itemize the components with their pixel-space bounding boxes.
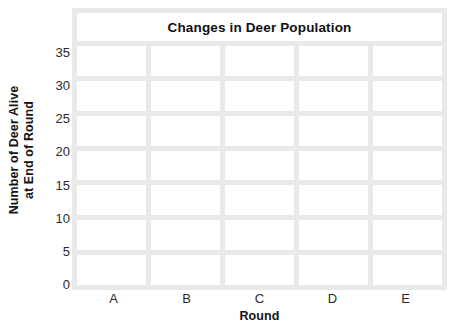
plot-area: Changes in Deer Population bbox=[72, 8, 447, 290]
x-axis-tick-labels: A B C D E bbox=[77, 291, 442, 309]
y-tick-0: 0 bbox=[44, 278, 70, 291]
plot-grid bbox=[77, 46, 442, 285]
y-axis-title: Number of Deer Alive at End of Round bbox=[0, 0, 44, 300]
y-tick-25: 25 bbox=[44, 112, 70, 125]
y-tick-20: 20 bbox=[44, 145, 70, 158]
deer-population-chart: Number of Deer Alive at End of Round 35 … bbox=[0, 0, 455, 331]
grid-cell-d-7 bbox=[299, 46, 368, 76]
y-axis-title-line2: at End of Round bbox=[22, 86, 37, 215]
grid-cell-a-7 bbox=[77, 46, 146, 76]
grid-cell-b-4 bbox=[151, 151, 220, 181]
grid-cell-d-6 bbox=[299, 81, 368, 111]
grid-cell-b-5 bbox=[151, 116, 220, 146]
grid-cell-e-2 bbox=[373, 220, 442, 250]
grid-cell-b-7 bbox=[151, 46, 220, 76]
chart-title: Changes in Deer Population bbox=[168, 20, 352, 35]
grid-cell-e-7 bbox=[373, 46, 442, 76]
grid-cell-e-1 bbox=[373, 255, 442, 285]
grid-cell-b-3 bbox=[151, 185, 220, 215]
grid-cell-e-5 bbox=[373, 116, 442, 146]
grid-cell-e-4 bbox=[373, 151, 442, 181]
grid-cell-c-1 bbox=[225, 255, 294, 285]
y-tick-35: 35 bbox=[44, 46, 70, 59]
y-tick-30: 30 bbox=[44, 79, 70, 92]
grid-cell-a-5 bbox=[77, 116, 146, 146]
grid-cell-a-4 bbox=[77, 151, 146, 181]
x-tick-b: B bbox=[150, 291, 223, 309]
grid-cell-d-4 bbox=[299, 151, 368, 181]
grid-cell-b-1 bbox=[151, 255, 220, 285]
grid-cell-c-5 bbox=[225, 116, 294, 146]
grid-cell-a-6 bbox=[77, 81, 146, 111]
grid-cell-d-2 bbox=[299, 220, 368, 250]
x-tick-a: A bbox=[77, 291, 150, 309]
grid-cell-a-1 bbox=[77, 255, 146, 285]
y-tick-5: 5 bbox=[44, 245, 70, 258]
grid-cell-d-3 bbox=[299, 185, 368, 215]
grid-cell-c-4 bbox=[225, 151, 294, 181]
y-axis-tick-labels: 35 30 25 20 15 10 5 0 bbox=[44, 0, 70, 300]
grid-cell-c-3 bbox=[225, 185, 294, 215]
grid-cell-c-2 bbox=[225, 220, 294, 250]
grid-cell-d-5 bbox=[299, 116, 368, 146]
x-axis-title: Round bbox=[77, 309, 442, 323]
grid-cell-b-2 bbox=[151, 220, 220, 250]
grid-cell-c-7 bbox=[225, 46, 294, 76]
y-axis-title-line1: Number of Deer Alive bbox=[7, 86, 22, 215]
grid-cell-c-6 bbox=[225, 81, 294, 111]
grid-cell-b-6 bbox=[151, 81, 220, 111]
y-tick-10: 10 bbox=[44, 212, 70, 225]
y-tick-15: 15 bbox=[44, 179, 70, 192]
grid-cell-e-3 bbox=[373, 185, 442, 215]
x-tick-c: C bbox=[223, 291, 296, 309]
grid-cell-a-2 bbox=[77, 220, 146, 250]
x-tick-e: E bbox=[369, 291, 442, 309]
grid-cell-d-1 bbox=[299, 255, 368, 285]
grid-cell-a-3 bbox=[77, 185, 146, 215]
chart-title-box: Changes in Deer Population bbox=[77, 13, 442, 41]
x-tick-d: D bbox=[296, 291, 369, 309]
grid-cell-e-6 bbox=[373, 81, 442, 111]
